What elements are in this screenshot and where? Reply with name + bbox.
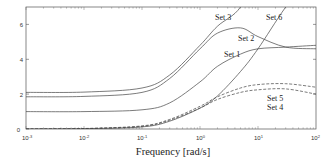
x-tick-1e2: 102 — [311, 134, 321, 142]
label-set-4: Set 4 — [267, 103, 283, 112]
y-tick-2: 2 — [20, 92, 24, 98]
series-set-2-line — [26, 28, 316, 97]
label-set-3: Set 3 — [215, 13, 231, 22]
y-tick-4: 4 — [20, 57, 24, 63]
label-set-2: Set 2 — [238, 34, 254, 43]
x-tick-labels: 10-3 10-2 10-1 100 101 102 — [22, 134, 321, 142]
frequency-response-chart: 0 2 4 6 10-3 10-2 10-1 100 101 102 Frequ… — [0, 0, 335, 160]
x-tick-1e0: 100 — [196, 134, 206, 142]
y-tick-0: 0 — [17, 127, 21, 133]
x-tick-1e-2: 10-2 — [79, 134, 90, 142]
label-set-5: Set 5 — [267, 94, 283, 103]
x-tick-1e-1: 10-1 — [137, 134, 148, 142]
x-tick-1e-3: 10-3 — [22, 134, 33, 142]
label-set-1: Set 1 — [224, 50, 240, 59]
x-tick-1e1: 101 — [254, 134, 264, 142]
y-axis — [26, 24, 316, 129]
label-set-6: Set 6 — [266, 13, 282, 22]
x-axis-title: Frequency [rad/s] — [136, 146, 210, 157]
y-tick-6: 6 — [20, 22, 24, 28]
